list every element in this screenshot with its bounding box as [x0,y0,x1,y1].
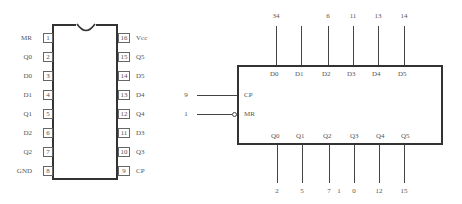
input-label-cp: CP [244,91,253,100]
pin-label: Vcc [136,33,160,43]
pin-label: D0 [10,71,32,81]
pin-line [277,145,278,183]
pin-label: Q1 [10,109,32,119]
pin-label: D1 [10,90,32,100]
pin-number: 34 [268,12,284,21]
pin-number: 13 [118,90,130,100]
input-label: D2 [322,70,331,79]
input-label: D1 [295,70,304,79]
pin-number: 3 [43,71,53,81]
pin-number: 12 [118,109,130,119]
pin-line [197,95,237,96]
pin-line [276,26,277,65]
pin-number: 1 [43,33,53,43]
pin-number: 5 [294,187,310,196]
pin-label: Q0 [10,52,32,62]
pin-label: Q5 [136,52,160,62]
pin-number: 13 [370,12,386,21]
pin-label: Q3 [136,147,160,157]
pin-number: 9 [180,91,192,100]
pin-label: CP [136,166,160,176]
pin-label: D4 [136,90,160,100]
pin-line [302,145,303,183]
pin-label: Q4 [136,109,160,119]
dip-body [52,24,118,180]
pin-label: Q2 [10,147,32,157]
pin-number: 6 [320,12,336,21]
output-label: Q1 [296,132,305,141]
pin-line [301,26,302,65]
pin-number: 0 [346,187,362,196]
pin-number: 15 [396,187,412,196]
pin-number: 14 [118,71,130,81]
output-label: Q2 [323,132,332,141]
pin-line [378,26,379,65]
pin-number: 15 [118,52,130,62]
pin-line [404,145,405,183]
input-label-mr: MR [244,110,255,119]
input-label: D0 [270,70,279,79]
pin-number: 14 [396,12,412,21]
pin-number: 11 [345,12,361,21]
pin-number: 16 [118,33,130,43]
pin-line [353,26,354,65]
pin-line [404,26,405,65]
pin-number: 1 [180,110,192,119]
output-label: Q3 [350,132,359,141]
pin-number: 12 [371,187,387,196]
pin-number: 11 [118,128,130,138]
pin-line [329,145,330,183]
pin-line [354,145,355,183]
logic-symbol-body [237,65,443,145]
pin1-notch-icon [76,23,96,35]
pin-number: 4 [43,90,53,100]
pin-label: MR [10,33,32,43]
pin-number: 8 [43,166,53,176]
pin-label: D3 [136,128,160,138]
output-label: Q4 [376,132,385,141]
output-label: Q5 [401,132,410,141]
inversion-bubble-icon [232,112,237,117]
stray-pin-digit: 1 [331,187,347,196]
pin-label: D5 [136,71,160,81]
pin-label: D2 [10,128,32,138]
pin-number: 10 [118,147,130,157]
input-label: D5 [398,70,407,79]
dip-package: MR 1 Q0 2 D0 3 D1 4 Q1 5 D2 6 Q2 7 GND 8… [0,0,170,204]
input-label: D3 [347,70,356,79]
pin-number: 9 [118,166,130,176]
pin-number: 2 [43,52,53,62]
pin-number: 6 [43,128,53,138]
pin-number: 7 [43,147,53,157]
input-label: D4 [372,70,381,79]
pin-label: GND [10,166,32,176]
pin-number: 5 [43,109,53,119]
output-label: Q0 [271,132,280,141]
pin-line [197,114,232,115]
pin-line [379,145,380,183]
pin-number: 2 [269,187,285,196]
pin-line [328,26,329,65]
